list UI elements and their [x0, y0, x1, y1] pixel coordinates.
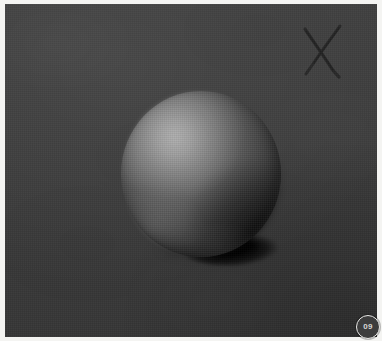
sphere-core-shadow	[121, 91, 281, 257]
sphere-rim-shading	[121, 91, 281, 257]
page-number-badge-label: 09	[363, 323, 372, 331]
page-number-badge: 09	[356, 315, 380, 339]
drawing-surface	[5, 4, 377, 337]
artboard: 09	[0, 0, 382, 341]
sphere	[121, 91, 281, 257]
sphere-highlight	[121, 91, 281, 257]
sphere-reflected-light	[121, 91, 281, 257]
sphere-grain-texture	[121, 91, 281, 257]
